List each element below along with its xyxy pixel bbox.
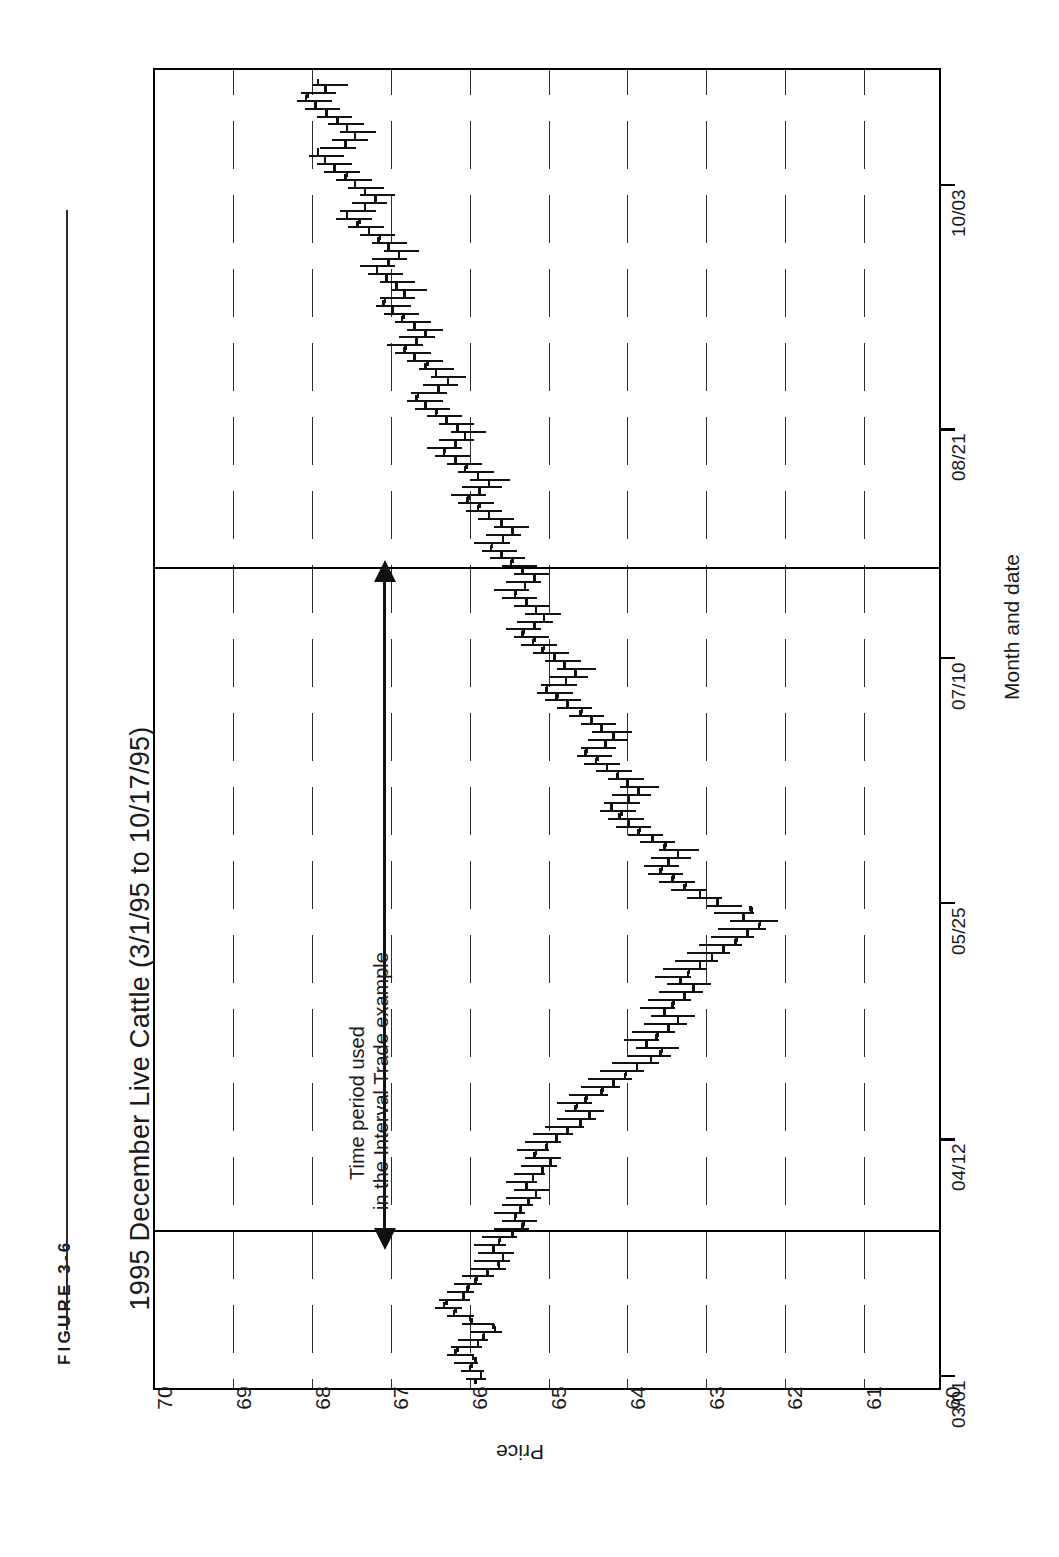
- ohlc-bar: [451, 431, 486, 433]
- ohlc-open-tick: [588, 1111, 591, 1116]
- ohlc-bar: [391, 289, 426, 291]
- ohlc-open-tick: [535, 1150, 538, 1155]
- price-tick-61: 61: [862, 1375, 886, 1421]
- ohlc-bar: [655, 976, 690, 978]
- ohlc-bar: [490, 557, 525, 559]
- ohlc-open-tick: [699, 961, 702, 966]
- ohlc-open-tick: [574, 669, 577, 674]
- ohlc-open-tick: [417, 393, 420, 398]
- ohlc-open-tick: [336, 117, 339, 122]
- ohlc-open-tick: [402, 314, 405, 319]
- ohlc-bar: [537, 692, 572, 694]
- ohlc-bar: [569, 715, 604, 717]
- ohlc-bar: [730, 920, 777, 922]
- ohlc-open-tick: [565, 677, 568, 682]
- ohlc-open-tick: [500, 519, 503, 524]
- ohlc-open-tick: [722, 945, 725, 950]
- ohlc-open-tick: [398, 251, 401, 256]
- ohlc-open-tick: [376, 266, 379, 271]
- ohlc-open-tick: [317, 148, 320, 153]
- ohlc-bar: [612, 794, 651, 796]
- figure-rule: [66, 210, 68, 1330]
- ohlc-open-tick: [502, 1253, 505, 1258]
- ohlc-open-tick: [663, 1008, 666, 1013]
- ohlc-open-tick: [413, 353, 416, 358]
- ohlc-open-tick: [424, 330, 427, 335]
- ohlc-open-tick: [683, 992, 686, 997]
- ohlc-open-tick: [606, 764, 609, 769]
- ohlc-open-tick: [469, 1316, 472, 1321]
- ohlc-open-tick: [585, 1095, 588, 1100]
- ohlc-open-tick: [590, 716, 593, 721]
- ohlc-bar: [324, 171, 359, 173]
- ohlc-open-tick: [524, 582, 527, 587]
- ohlc-open-tick: [692, 984, 695, 989]
- ohlc-bar: [384, 313, 419, 315]
- ohlc-bar: [616, 826, 651, 828]
- ohlc-bar: [454, 1362, 478, 1364]
- ohlc-open-tick: [639, 827, 642, 832]
- ohlc-open-tick: [354, 180, 357, 185]
- ohlc-open-tick: [566, 700, 569, 705]
- ohlc-open-tick: [475, 1276, 478, 1281]
- ohlc-bar: [557, 1118, 596, 1120]
- chart-plot-area: [153, 68, 941, 1390]
- ohlc-open-tick: [465, 464, 468, 469]
- ohlc-open-tick: [454, 1308, 457, 1313]
- ohlc-bar: [466, 510, 501, 512]
- date-tick-03-01: 03/01: [948, 1318, 970, 1428]
- gridline-price-61: [863, 70, 866, 1388]
- ohlc-open-tick: [492, 1324, 495, 1329]
- ohlc-bar: [423, 384, 458, 386]
- ohlc-open-tick: [661, 866, 664, 871]
- ohlc-bar: [415, 408, 450, 410]
- ohlc-open-tick: [535, 1190, 538, 1195]
- ohlc-bar: [462, 486, 501, 488]
- ohlc-open-tick: [364, 188, 367, 193]
- gridline-price-62: [784, 70, 787, 1388]
- ohlc-open-tick: [478, 503, 481, 508]
- ohlc-bar: [517, 1149, 549, 1151]
- ohlc-open-tick: [435, 369, 438, 374]
- ohlc-bar: [581, 723, 616, 725]
- ohlc-open-tick: [467, 1284, 470, 1289]
- ohlc-open-tick: [346, 172, 349, 177]
- ohlc-open-tick: [443, 448, 446, 453]
- ohlc-bar: [514, 605, 549, 607]
- ohlc-open-tick: [424, 401, 427, 406]
- ohlc-bar: [360, 194, 395, 196]
- date-axis-title: Month and date: [1000, 500, 1024, 700]
- ohlc-bar: [320, 147, 355, 149]
- ohlc-close-tick: [317, 79, 320, 84]
- ohlc-open-tick: [549, 1158, 552, 1163]
- ohlc-open-tick: [324, 85, 327, 90]
- ohlc-open-tick: [387, 259, 390, 264]
- ohlc-open-tick: [543, 614, 546, 619]
- ohlc-bar: [624, 1039, 659, 1041]
- ohlc-open-tick: [735, 937, 738, 942]
- ohlc-bar: [628, 834, 663, 836]
- ohlc-bar: [502, 1204, 534, 1206]
- gridline-price-69: [232, 70, 235, 1388]
- ohlc-bar: [447, 1354, 475, 1356]
- ohlc-bar: [557, 1102, 592, 1104]
- ohlc-bar: [384, 250, 419, 252]
- ohlc-bar: [458, 502, 493, 504]
- ohlc-open-tick: [364, 203, 367, 208]
- ohlc-bar: [514, 636, 549, 638]
- ohlc-bar: [525, 1141, 560, 1143]
- ohlc-open-tick: [454, 440, 457, 445]
- ohlc-bar: [447, 1291, 475, 1293]
- ohlc-open-tick: [679, 977, 682, 982]
- ohlc-open-tick: [368, 227, 371, 232]
- ohlc-bar: [667, 983, 710, 985]
- ohlc-open-tick: [688, 969, 691, 974]
- ohlc-open-tick: [358, 219, 361, 224]
- ohlc-open-tick: [585, 748, 588, 753]
- ohlc-bar: [360, 234, 395, 236]
- ohlc-open-tick: [436, 409, 439, 414]
- price-axis-title: Price: [460, 1440, 580, 1464]
- ohlc-bar: [699, 944, 742, 946]
- ohlc-open-tick: [415, 337, 418, 342]
- ohlc-bar: [600, 1070, 643, 1072]
